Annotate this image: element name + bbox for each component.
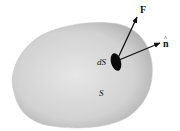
surface-blob xyxy=(12,23,152,128)
diagram-canvas: F n ^ dS S xyxy=(0,0,180,131)
force-label: F xyxy=(140,4,146,15)
surface-label: S xyxy=(99,88,104,98)
diagram-svg: F n ^ dS S xyxy=(0,0,180,131)
area-element-label: dS xyxy=(97,57,107,67)
